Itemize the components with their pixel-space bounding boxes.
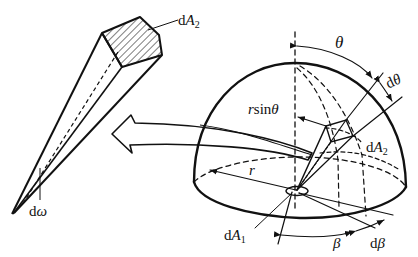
label-radius: r xyxy=(249,163,255,178)
label-domega: dω xyxy=(29,204,47,219)
label-beta: β xyxy=(333,236,340,251)
hemisphere-outline xyxy=(194,63,406,187)
label-cone-dA2: dA2 xyxy=(178,13,200,30)
cone-edge-upper xyxy=(12,33,102,214)
hemisphere-solid-angle-diagram xyxy=(0,0,418,257)
solid-angle-cone xyxy=(12,17,178,214)
cone-edge-mid xyxy=(13,67,122,214)
label-dbeta: dβ xyxy=(370,236,385,251)
label-dA1: dA1 xyxy=(224,228,246,245)
cone-end-cap-dA2 xyxy=(102,17,162,67)
label-theta: θ xyxy=(335,34,343,51)
transfer-arrow xyxy=(112,115,312,160)
label-hemi-dA2: dA2 xyxy=(366,140,388,157)
label-rsintheta: rsinθ xyxy=(248,102,279,117)
